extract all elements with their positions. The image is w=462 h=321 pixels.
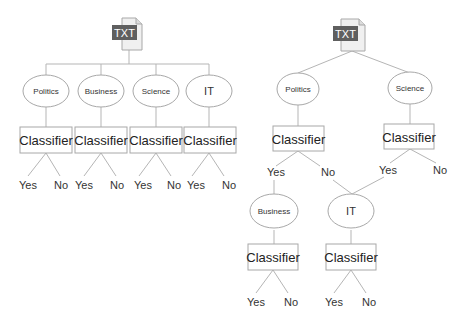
classifier-label: Classifier xyxy=(324,250,378,265)
no-label: No xyxy=(54,179,68,191)
category-node-politics: Politics xyxy=(23,75,69,107)
category-label: Business xyxy=(258,207,290,216)
category-node-science: Science xyxy=(133,75,179,107)
classifier-diagram: TXT Politics Business Science IT Classif… xyxy=(0,0,462,321)
classifier-label: Classifier xyxy=(183,133,237,148)
no-label: No xyxy=(110,179,124,191)
classifier-label: Classifier xyxy=(246,250,300,265)
yes-label: Yes xyxy=(75,179,93,191)
no-label: No xyxy=(321,166,335,178)
classifier-box: Classifier xyxy=(183,127,237,153)
classifier-label: Classifier xyxy=(74,133,128,148)
yes-label: Yes xyxy=(187,179,205,191)
category-label: Politics xyxy=(285,85,310,94)
classifier-box: Classifier xyxy=(324,244,378,270)
category-label: Business xyxy=(85,87,117,96)
right-tree: TXT Politics Classifier Yes No Science C… xyxy=(246,19,447,308)
category-label: Science xyxy=(142,87,171,96)
category-label: Politics xyxy=(33,87,58,96)
txt-label: TXT xyxy=(335,28,356,40)
yes-label: Yes xyxy=(247,296,265,308)
category-node-business: Business xyxy=(250,194,298,228)
no-label: No xyxy=(222,179,236,191)
category-node-business: Business xyxy=(78,75,124,107)
classifier-box: Classifier xyxy=(272,126,326,151)
txt-file-icon: TXT xyxy=(112,18,142,50)
txt-label: TXT xyxy=(114,27,135,39)
yes-label: Yes xyxy=(19,179,37,191)
category-label: IT xyxy=(204,85,214,97)
category-node-politics: Politics xyxy=(277,73,319,105)
classifier-box: Classifier xyxy=(382,124,436,149)
no-label: No xyxy=(433,164,447,176)
no-label: No xyxy=(362,296,376,308)
category-node-it: IT xyxy=(186,75,232,107)
category-label: Science xyxy=(396,84,425,93)
yes-label: Yes xyxy=(267,166,285,178)
classifier-label: Classifier xyxy=(19,133,73,148)
no-label: No xyxy=(167,179,181,191)
classifier-label: Classifier xyxy=(382,130,436,145)
classifier-box: Classifier xyxy=(246,244,300,270)
classifier-label: Classifier xyxy=(129,133,183,148)
category-node-it: IT xyxy=(328,194,374,228)
txt-file-icon: TXT xyxy=(333,19,365,51)
category-label: IT xyxy=(346,205,356,217)
yes-label: Yes xyxy=(134,179,152,191)
classifier-label: Classifier xyxy=(272,132,326,147)
yes-label: Yes xyxy=(325,296,343,308)
no-label: No xyxy=(284,296,298,308)
classifier-box: Classifier xyxy=(74,127,128,153)
left-tree: TXT Politics Business Science IT Classif… xyxy=(19,18,237,191)
category-node-science: Science xyxy=(388,72,432,104)
yes-label: Yes xyxy=(379,164,397,176)
classifier-box: Classifier xyxy=(129,127,183,153)
classifier-box: Classifier xyxy=(19,127,73,153)
